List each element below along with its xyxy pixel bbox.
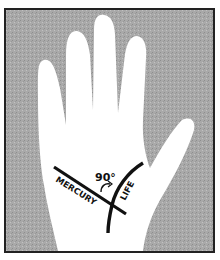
- angle-label: 90°: [95, 171, 116, 184]
- palmistry-illustration: 90° MERCURY LIFE: [0, 0, 220, 260]
